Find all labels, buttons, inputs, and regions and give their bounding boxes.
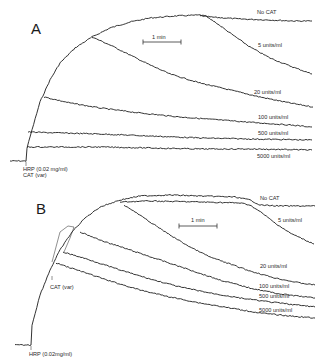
panel-a-label-20: 20 units/ml (254, 89, 281, 95)
panel-b-cat-artifact (52, 226, 74, 262)
panel-a-label-5000: 5000 units/ml (257, 153, 290, 159)
figure: A 1 min No CAT 5 units/ml 20 units/ml 10… (0, 0, 325, 364)
panel-b-label-500: 500 units/ml (259, 293, 289, 299)
panel-a-label-no-cat: No CAT (257, 9, 277, 15)
panel-a-scale-label: 1 min (152, 34, 166, 40)
panel-b-label-20: 20 units/ml (260, 263, 287, 269)
panel-b-annotation-cat: CAT (var) (50, 284, 74, 290)
panel-b-traces (15, 195, 315, 346)
panel-b-label-100: 100 units/ml (259, 283, 289, 289)
panel-a-scale-bar: 1 min (143, 34, 181, 45)
panel-a-letter: A (31, 20, 41, 37)
panel-b-label-5: 5 units/ml (278, 217, 302, 223)
panel-b-label-5000: 5000 units/ml (259, 307, 292, 313)
trace-5000-units-ml (27, 147, 312, 151)
trace-5-units-ml (200, 16, 312, 75)
panel-a-annotation-cat: CAT (var) (23, 172, 47, 178)
panel-b-letter: B (36, 200, 46, 217)
panel-b-scale-label: 1 min (191, 217, 205, 223)
panel-a-label-500: 500 units/ml (258, 130, 288, 136)
panel-b: B 1 min No CAT 5 units/ml 20 units/ml 10… (15, 195, 315, 357)
panel-b-scale-bar: 1 min (179, 217, 217, 229)
trace-100-units-ml (44, 97, 312, 127)
panel-b-annotation-hrp: HRP (0.02mg/ml) (29, 351, 72, 357)
panel-b-label-no-cat: No CAT (260, 195, 280, 201)
trace-no-cat (15, 195, 315, 346)
panel-a-label-5: 5 units/ml (258, 42, 282, 48)
panel-a: A 1 min No CAT 5 units/ml 20 units/ml 10… (10, 9, 313, 178)
panel-a-label-100: 100 units/ml (258, 114, 288, 120)
